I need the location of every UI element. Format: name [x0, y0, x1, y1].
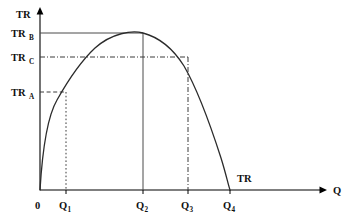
- x-label-q4: Q 4: [223, 200, 236, 214]
- x-label-origin: 0: [35, 200, 40, 211]
- tr-curve-chart: TR Q TR B TR C TR A 0 Q 1 Q 2: [0, 0, 351, 223]
- y-label-trb-subscript: B: [29, 34, 34, 42]
- y-label-trb-text: TR: [11, 28, 26, 39]
- x-label-q3-text: Q: [181, 200, 189, 211]
- y-axis-arrow-icon: [37, 7, 44, 15]
- x-label-q1-subscript: 1: [68, 206, 72, 214]
- y-label-trc-text: TR: [11, 52, 26, 63]
- x-label-q2-subscript: 2: [145, 206, 149, 214]
- x-axis-title: Q: [333, 185, 341, 196]
- y-label-tra-text: TR: [11, 87, 26, 98]
- x-axis: [40, 187, 327, 194]
- x-label-q3: Q 3: [181, 200, 194, 214]
- x-label-q4-subscript: 4: [232, 206, 236, 214]
- x-label-q1: Q 1: [59, 200, 72, 214]
- curve-label-tr: TR: [237, 173, 252, 184]
- x-label-q3-subscript: 3: [190, 206, 194, 214]
- x-label-q2-text: Q: [136, 200, 144, 211]
- y-label-trc: TR C: [11, 52, 34, 66]
- x-label-q1-text: Q: [59, 200, 67, 211]
- x-axis-arrow-icon: [320, 187, 328, 194]
- y-label-trb: TR B: [11, 28, 34, 42]
- y-label-tra-subscript: A: [29, 93, 35, 101]
- x-label-q4-text: Q: [223, 200, 231, 211]
- chart-canvas: TR Q TR B TR C TR A 0 Q 1 Q 2: [0, 0, 351, 223]
- tr-curve: [40, 32, 230, 190]
- y-axis-title: TR: [16, 9, 31, 20]
- y-label-tra: TR A: [11, 87, 35, 101]
- y-label-trc-subscript: C: [29, 58, 34, 66]
- x-label-q2: Q 2: [136, 200, 149, 214]
